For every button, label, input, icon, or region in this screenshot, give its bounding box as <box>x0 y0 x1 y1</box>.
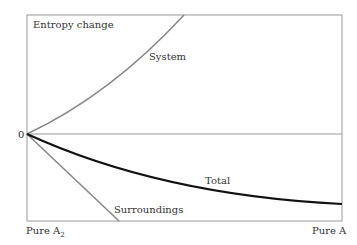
x-right-label: Pure A <box>312 226 346 236</box>
x-left-label: Pure A2 <box>26 226 65 239</box>
plot-frame <box>27 15 342 221</box>
y-axis-label: Entropy change <box>33 20 114 30</box>
surroundings-label: Surroundings <box>114 205 183 215</box>
zero-tick-label: 0 <box>18 130 24 140</box>
total-label: Total <box>205 176 230 186</box>
system-curve <box>27 15 184 134</box>
surroundings-line <box>27 134 119 221</box>
total-curve <box>27 134 342 204</box>
system-label: System <box>149 52 186 62</box>
